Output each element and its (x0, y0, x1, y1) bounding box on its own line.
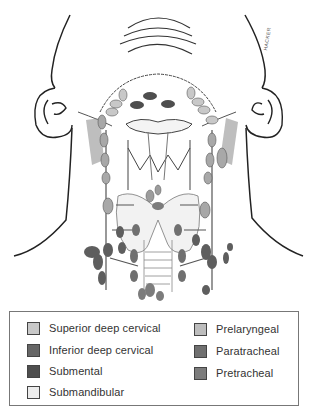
swatch-inferior-deep-cervical (27, 344, 40, 357)
legend-label: Inferior deep cervical (49, 344, 153, 356)
swatch-prelaryngeal (194, 323, 207, 336)
paratracheal-nodes (130, 224, 186, 282)
legend-label: Paratracheal (216, 345, 280, 357)
submental-nodes (130, 92, 175, 109)
legend-label: Pretracheal (216, 367, 273, 379)
swatch-submental (27, 365, 40, 378)
legend-item-paratracheal: Paratracheal (194, 343, 280, 359)
swatch-pretracheal (194, 367, 207, 380)
right-face-outline (245, 15, 265, 88)
right-neck-outline (246, 128, 303, 256)
swatch-submandibular (27, 386, 40, 399)
legend-item-submandibular: Submandibular (27, 384, 124, 400)
legend: Superior deep cervical Inferior deep cer… (9, 311, 299, 406)
swatch-paratracheal (194, 345, 207, 358)
legend-item-prelaryngeal: Prelaryngeal (194, 321, 279, 337)
legend-label: Prelaryngeal (216, 323, 279, 335)
legend-item-pretracheal: Pretracheal (194, 365, 273, 381)
right-ear (246, 88, 282, 138)
legend-label: Submental (49, 365, 103, 377)
legend-item-submental: Submental (27, 363, 103, 379)
left-neck-outline (14, 128, 72, 256)
left-face-outline (51, 15, 70, 88)
legend-label: Submandibular (49, 386, 124, 398)
prelaryngeal-nodes (146, 185, 161, 202)
larynx (126, 119, 192, 190)
legend-item-superior-deep-cervical: Superior deep cervical (27, 320, 161, 336)
legend-label: Superior deep cervical (49, 322, 161, 334)
legend-item-inferior-deep-cervical: Inferior deep cervical (27, 342, 153, 358)
left-ear (35, 88, 72, 138)
swatch-superior-deep-cervical (27, 322, 40, 335)
lip-lines (120, 18, 196, 54)
